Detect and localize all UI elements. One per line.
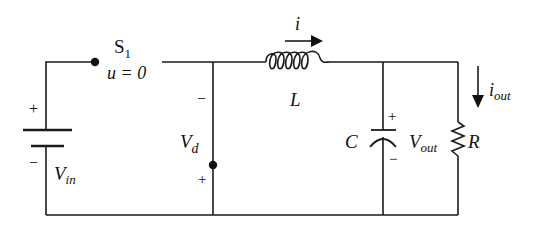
resistor-label: R (467, 131, 480, 152)
diode-node-icon (209, 161, 217, 169)
capacitor-minus-sign: − (389, 151, 397, 167)
capacitor-label: C (345, 131, 358, 152)
switch-state-label: u = 0 (107, 63, 146, 83)
inductor-current-arrow-icon (285, 35, 323, 47)
diode-plus-sign: + (198, 171, 206, 187)
output-voltage-label: Vout (409, 131, 438, 155)
diode-voltage-label: Vd (180, 131, 200, 156)
source-voltage-label: Vin (54, 163, 76, 187)
inductor-label: L (289, 89, 301, 110)
buck-converter-circuit: S1 u = 0 + − Vin − Vd + i L C + − Vout R… (0, 0, 544, 228)
output-current-label: iout (489, 80, 511, 103)
output-current-arrow-icon (472, 66, 484, 108)
source-plus-sign: + (29, 100, 38, 117)
wire-source-to-switch (46, 62, 95, 130)
capacitor-plus-sign: + (388, 108, 396, 124)
resistor-icon (452, 122, 464, 156)
switch-contact-icon (91, 58, 99, 66)
diode-minus-sign: − (197, 90, 206, 107)
circuit-wires (46, 62, 458, 215)
switch-label: S1 (114, 36, 131, 61)
battery-icon (23, 130, 72, 146)
inductor-icon (266, 51, 330, 68)
source-minus-sign: − (29, 154, 38, 171)
inductor-current-label: i (295, 14, 300, 34)
